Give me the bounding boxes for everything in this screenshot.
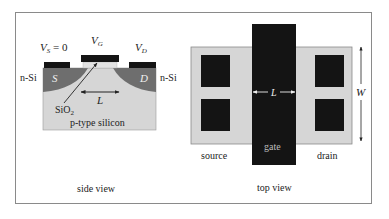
gate-label: gate [264,141,281,152]
substrate-label: p-type silicon [70,117,125,128]
top-view: L gate W source drain top view [191,24,366,193]
source-region-label: S [52,72,58,84]
vd-label: VD [135,41,147,55]
mosfet-diagram: VS = 0 VG VD n-Si n-Si S D L SiO2 p-type… [0,0,389,219]
gate-oxide [83,62,117,68]
drain-region-label: D [139,72,148,84]
drain-label: drain [317,150,338,161]
channel-length-label: L [96,94,103,106]
side-view-caption: side view [77,183,116,194]
source-label: source [201,150,228,161]
gate-contact [81,55,119,62]
gate-length-label: L [270,87,277,98]
drain-contact-bottom [315,99,344,131]
source-contact-bottom [201,99,230,131]
n-si-right-label: n-Si [160,72,177,83]
drain-contact-top [315,55,344,87]
vs-label: VS = 0 [40,41,68,55]
side-view: VS = 0 VG VD n-Si n-Si S D L SiO2 p-type… [20,34,177,194]
top-view-caption: top view [257,182,292,193]
n-si-left-label: n-Si [20,72,37,83]
width-label: W [356,86,366,98]
source-contact [44,62,70,68]
vg-label: VG [91,34,103,48]
source-contact-top [201,55,230,87]
drain-contact [129,62,156,68]
